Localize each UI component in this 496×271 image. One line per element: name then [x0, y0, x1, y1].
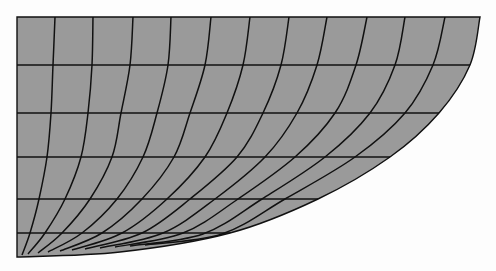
mesh-figure [0, 0, 496, 271]
grid-diagram [0, 0, 496, 271]
